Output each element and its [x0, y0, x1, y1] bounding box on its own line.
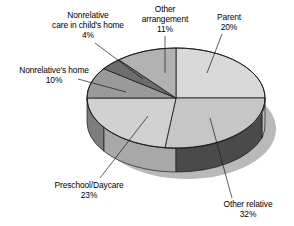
slice-label-other-arrangement: Other arrangement 11%: [142, 4, 188, 35]
slice-label-value: 20%: [217, 22, 241, 32]
slice-label-line-2: arrangement: [142, 14, 188, 24]
slice-label-value: 32%: [224, 209, 273, 219]
slice-label-other-relative: Other relative 32%: [224, 199, 273, 219]
slice-label-line-2: care in child's home: [52, 20, 124, 30]
pie-chart-figure: Nonrelative care in child's home 4% Othe…: [0, 0, 294, 226]
slice-label-line-1: Parent: [217, 12, 241, 22]
slice-label-nonrelatives-home: Nonrelative's home 10%: [19, 65, 89, 85]
slice-label-line-1: Nonrelative's home: [19, 65, 89, 75]
slice-label-line-1: Other relative: [224, 199, 273, 209]
slice-label-line-1: Nonrelative: [52, 10, 124, 20]
slice-label-value: 10%: [19, 75, 89, 85]
slice-label-value: 11%: [142, 24, 188, 34]
slice-label-nonrelative-care-child-home: Nonrelative care in child's home 4%: [52, 10, 124, 41]
slice-label-line-1: Preschool/Daycare: [54, 180, 123, 190]
slice-top-parent: [176, 48, 265, 98]
slice-label-value: 23%: [54, 190, 123, 200]
slice-label-preschool-daycare: Preschool/Daycare 23%: [54, 180, 123, 200]
slice-label-line-1: Other: [142, 4, 188, 14]
slice-label-value: 4%: [52, 30, 124, 40]
slice-label-parent: Parent 20%: [217, 12, 241, 32]
